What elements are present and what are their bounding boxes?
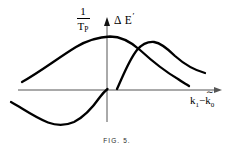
figure-caption: FIG. 5. bbox=[0, 137, 234, 144]
figure-container: 1 TP Δ E′ k1−∼k0 FIG. 5. bbox=[0, 0, 234, 157]
k-one-base: k bbox=[190, 94, 196, 106]
x-axis-label: k1−∼k0 bbox=[190, 95, 214, 106]
delta-e-text: Δ E bbox=[114, 14, 132, 26]
prime-mark: ′ bbox=[132, 11, 135, 21]
fraction-denominator: TP bbox=[70, 19, 96, 34]
k-zero-subscript: 0 bbox=[211, 101, 215, 109]
curve-delta-e-prime bbox=[11, 89, 108, 125]
k-one-subscript: 1 bbox=[196, 101, 200, 109]
tilde-accent: ∼ bbox=[205, 88, 214, 97]
k-zero-tilde: ∼k0 bbox=[205, 95, 214, 106]
x-axis-arrow-icon bbox=[214, 87, 222, 93]
y-axis bbox=[104, 17, 110, 122]
denominator-subscript: P bbox=[84, 25, 88, 34]
y-axis-label-one-over-tp: 1 TP bbox=[70, 6, 96, 34]
y-axis-label-delta-e-prime: Δ E′ bbox=[114, 12, 135, 26]
curve-one-over-tp bbox=[22, 37, 189, 87]
fraction-numerator: 1 bbox=[70, 6, 96, 18]
curve-second-bell bbox=[117, 42, 205, 89]
x-axis bbox=[18, 87, 222, 93]
y-axis-arrow-icon bbox=[104, 17, 110, 26]
